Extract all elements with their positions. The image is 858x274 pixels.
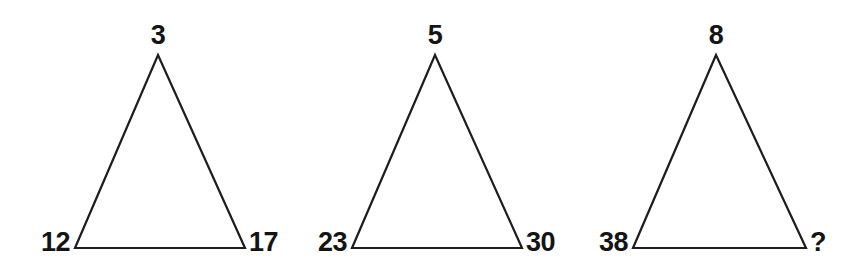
triangle-1-outline [75,55,245,248]
triangle-1-bottom-right-label: 17 [249,229,278,256]
triangle-2-bottom-right-label: 30 [526,229,555,256]
triangle-3-bottom-right-label: ? [810,229,826,256]
triangle-3-bottom-left-label: 38 [599,229,628,256]
triangle-3-outline [633,55,806,248]
triangle-1-bottom-left-label: 12 [41,229,70,256]
triangle-1-apex-label: 3 [151,22,166,49]
puzzle-canvas: 3 12 17 5 23 30 8 38 ? [0,0,858,274]
triangle-2-apex-label: 5 [428,22,443,49]
triangle-2-bottom-left-label: 23 [318,229,347,256]
triangle-3-apex-label: 8 [709,22,724,49]
triangle-2-outline [352,55,522,248]
